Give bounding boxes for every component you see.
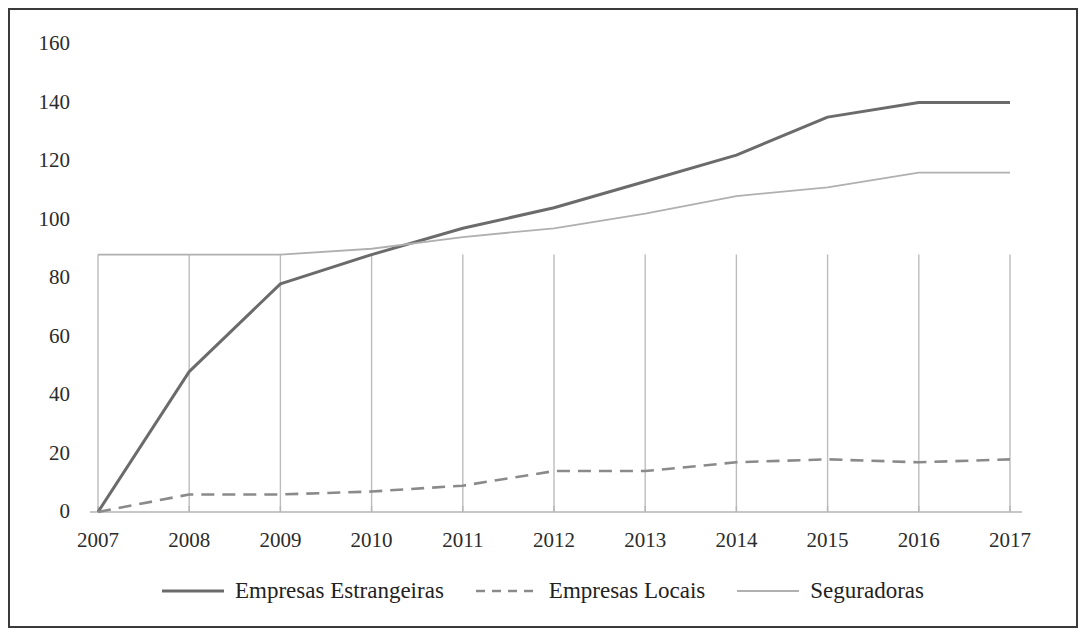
x-tick-label-2013: 2013: [595, 530, 695, 551]
x-tick-label-2008: 2008: [139, 530, 239, 551]
y-tick-label-20: 20: [10, 443, 70, 464]
x-tick-label-2015: 2015: [778, 530, 878, 551]
dashed-line-swatch: [476, 584, 538, 598]
x-tick-label-2014: 2014: [686, 530, 786, 551]
legend-entry-empresas-estrangeiras[interactable]: Empresas Estrangeiras: [162, 578, 444, 604]
x-tick-label-2007: 2007: [48, 530, 148, 551]
legend-entry-empresas-locais[interactable]: Empresas Locais: [476, 578, 705, 604]
x-tick-label-2012: 2012: [504, 530, 604, 551]
legend-label: Empresas Estrangeiras: [235, 578, 444, 604]
y-tick-label-40: 40: [10, 384, 70, 405]
x-tick-label-2011: 2011: [413, 530, 513, 551]
y-tick-label-140: 140: [10, 92, 70, 113]
chart-figure: 020406080100120140160 200720082009201020…: [8, 8, 1078, 628]
chart-legend: Empresas EstrangeirasEmpresas LocaisSegu…: [10, 578, 1076, 604]
solid-line-swatch: [162, 584, 224, 598]
x-tick-label-2009: 2009: [230, 530, 330, 551]
legend-label: Empresas Locais: [549, 578, 705, 604]
legend-label: Seguradoras: [810, 578, 924, 604]
x-tick-label-2017: 2017: [960, 530, 1060, 551]
series-line-seguradoras: [98, 173, 1010, 255]
legend-entry-seguradoras[interactable]: Seguradoras: [737, 578, 924, 604]
x-tick-label-2010: 2010: [322, 530, 422, 551]
y-tick-label-60: 60: [10, 326, 70, 347]
y-tick-label-0: 0: [10, 501, 70, 522]
y-tick-label-120: 120: [10, 150, 70, 171]
y-tick-label-80: 80: [10, 267, 70, 288]
x-tick-label-2016: 2016: [869, 530, 969, 551]
y-tick-label-160: 160: [10, 33, 70, 54]
light-solid-line-swatch: [737, 584, 799, 598]
chart-plot-container: 020406080100120140160 200720082009201020…: [10, 10, 1076, 626]
y-tick-label-100: 100: [10, 209, 70, 230]
